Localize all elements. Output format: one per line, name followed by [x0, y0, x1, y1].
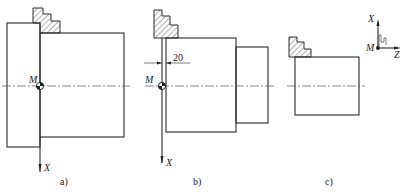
x-axis-arrow-icon [39, 164, 42, 172]
axis-x-label: X [165, 157, 173, 168]
panel-caption: b) [193, 176, 201, 188]
dimension-20: 20 [144, 52, 190, 65]
panel-b: 20 M X b) [144, 10, 276, 188]
panel-caption: a) [60, 176, 68, 188]
origin-label: M [28, 74, 38, 85]
origin-label: M [144, 74, 154, 85]
coordinate-axes-icon [376, 19, 401, 50]
axis-z-label: Z [394, 49, 400, 60]
chuck-block [7, 23, 40, 147]
workpiece-step [236, 47, 268, 123]
lathe-coordinate-diagram: M X a) 20 M X b) [0, 0, 407, 195]
panel-c: X Z M c) [287, 13, 401, 188]
axis-x-label: X [43, 162, 51, 173]
tool-holder [33, 8, 60, 33]
origin-label: M [365, 42, 375, 53]
machine-origin-icon [158, 82, 165, 89]
panel-a: M X a) [2, 8, 130, 188]
machine-origin-icon [36, 82, 43, 89]
panel-caption: c) [325, 176, 333, 188]
workpiece [40, 33, 124, 137]
tool-holder [154, 10, 178, 38]
dimension-value: 20 [173, 52, 183, 63]
tool-holder [289, 37, 311, 57]
x-axis-arrow-icon [161, 156, 164, 164]
axis-x-label: X [367, 13, 375, 24]
